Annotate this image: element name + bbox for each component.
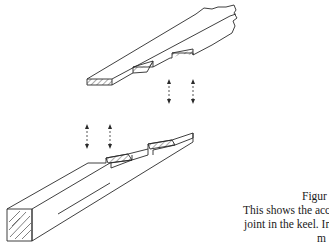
double-arrow-icon — [108, 124, 112, 149]
caption-line-2: joint in the keel. In s — [244, 217, 329, 231]
upper-arrows — [167, 79, 195, 104]
double-arrow-icon — [85, 124, 89, 149]
lower-timber — [7, 133, 193, 241]
caption-line-3: m — [317, 231, 326, 245]
upper-step-2 — [172, 49, 193, 58]
upper-end-grain — [87, 79, 112, 85]
figure-page: Figur This shows the accur joint in the … — [0, 0, 329, 245]
double-arrow-icon — [167, 79, 171, 104]
double-arrow-icon — [191, 79, 195, 104]
figure-title: Figur — [302, 189, 327, 203]
caption-line-1: This shows the accur — [243, 203, 329, 217]
lower-arrows — [85, 124, 112, 149]
upper-timber — [87, 5, 237, 85]
